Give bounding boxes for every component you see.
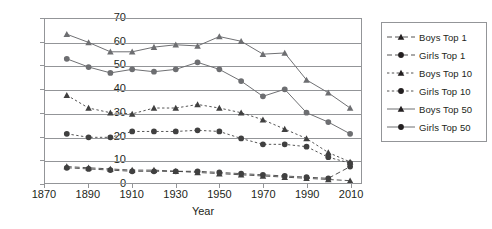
data-point [216, 67, 222, 73]
legend-item-girls-top-50[interactable]: Girls Top 50 [386, 118, 482, 136]
data-point [64, 131, 70, 137]
data-point [194, 101, 201, 107]
x-axis-tick-mark [88, 184, 89, 188]
legend-item-boys-top-50[interactable]: Boys Top 50 [386, 100, 482, 118]
data-point [107, 167, 113, 173]
legend-item-label: Girls Top 10 [419, 86, 471, 97]
legend-item-label: Girls Top 50 [419, 122, 471, 133]
data-point [129, 168, 135, 174]
data-point [238, 136, 244, 142]
data-point [238, 78, 244, 84]
data-point [282, 86, 288, 92]
x-axis-tick-mark [132, 184, 133, 188]
data-point [129, 67, 135, 73]
x-axis-title: Year [44, 205, 362, 217]
data-point [195, 127, 201, 133]
data-point [347, 105, 354, 111]
legend-item-girls-top-1[interactable]: Girls Top 1 [386, 46, 482, 64]
legend-item-label: Boys Top 1 [419, 32, 467, 43]
legend-swatch-icon [386, 85, 416, 97]
legend-item-boys-top-10[interactable]: Boys Top 10 [386, 64, 482, 82]
data-point [86, 166, 92, 172]
series-girls-top-50 [64, 56, 353, 137]
data-point [260, 172, 266, 178]
legend-swatch-icon [386, 31, 416, 43]
data-point [195, 168, 201, 174]
series-layer [45, 19, 361, 183]
legend-swatch-icon [386, 103, 416, 115]
data-point [151, 129, 157, 135]
data-point [260, 93, 266, 99]
x-axis-tick-label: 2010 [325, 188, 377, 200]
data-point [129, 129, 135, 135]
data-point [325, 119, 331, 125]
data-point [260, 141, 266, 147]
data-point [107, 134, 113, 140]
data-point [238, 171, 244, 177]
data-point [173, 168, 179, 174]
data-point [64, 165, 70, 171]
data-point [304, 110, 310, 116]
data-point [216, 105, 223, 111]
data-point [151, 168, 157, 174]
data-point [325, 154, 331, 160]
x-axis-tick-mark [44, 184, 45, 188]
data-point [86, 64, 92, 70]
x-axis-tick-mark [351, 184, 352, 188]
data-point [216, 170, 222, 176]
data-point [347, 160, 353, 166]
data-point [85, 105, 92, 111]
legend-swatch-icon [386, 67, 416, 79]
legend-item-label: Boys Top 50 [419, 104, 472, 115]
data-point [260, 116, 267, 122]
data-point [86, 134, 92, 140]
series-line [67, 95, 350, 162]
x-axis-tick-mark [263, 184, 264, 188]
legend-item-label: Girls Top 1 [419, 50, 465, 61]
legend-swatch-icon [386, 121, 416, 133]
series-line [67, 59, 350, 134]
series-boys-top-50 [64, 31, 354, 111]
series-boys-top-10 [64, 92, 354, 165]
data-point [216, 33, 223, 39]
data-point [107, 70, 113, 76]
data-point [282, 173, 288, 179]
plot-area [44, 18, 362, 184]
legend-swatch-icon [386, 49, 416, 61]
data-point [303, 135, 310, 141]
data-point [325, 175, 331, 181]
legend-item-label: Boys Top 10 [419, 68, 472, 79]
data-point [151, 105, 158, 111]
data-point [281, 126, 288, 132]
data-point [85, 39, 92, 45]
legend-item-boys-top-1[interactable]: Boys Top 1 [386, 28, 482, 46]
data-point [173, 129, 179, 135]
data-point [64, 31, 71, 37]
data-point [304, 144, 310, 150]
legend: Boys Top 1Girls Top 1Boys Top 10Girls To… [381, 22, 487, 142]
series-boys-top-1 [64, 163, 354, 183]
data-point [151, 69, 157, 75]
legend-item-girls-top-10[interactable]: Girls Top 10 [386, 82, 482, 100]
data-point [347, 131, 353, 137]
data-point [216, 129, 222, 135]
data-point [173, 67, 179, 73]
x-axis-tick-mark [176, 184, 177, 188]
data-point [325, 90, 332, 96]
data-point [195, 59, 201, 65]
data-point [304, 174, 310, 180]
x-axis-tick-mark [307, 184, 308, 188]
data-point [282, 141, 288, 147]
line-chart: 010203040506070 187018901910193019501970… [0, 0, 492, 229]
x-axis-tick-mark [219, 184, 220, 188]
data-point [64, 92, 71, 98]
data-point [64, 56, 70, 62]
series-girls-top-10 [64, 127, 353, 166]
